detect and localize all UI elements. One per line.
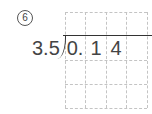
grid-line <box>65 84 147 85</box>
dividend-cell: 1 <box>86 36 106 60</box>
dividend-cell: 0. <box>65 36 85 60</box>
dividend-cell: 4 <box>106 36 126 60</box>
dividend-cell <box>127 36 147 60</box>
divisor: 3.5 <box>32 36 60 60</box>
grid-line <box>65 108 147 109</box>
answer-grid <box>65 12 147 108</box>
grid-line <box>65 60 147 61</box>
problem-number-badge: 6 <box>17 10 33 26</box>
grid-line <box>147 12 148 108</box>
grid-line <box>65 12 147 13</box>
